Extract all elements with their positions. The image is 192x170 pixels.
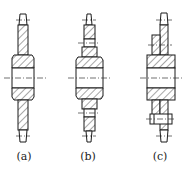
sprocket-a [4,14,46,142]
sprocket-b [68,14,110,142]
sprocket-c [140,13,184,142]
label-c: (c) [145,150,175,163]
label-a: (a) [9,150,39,163]
sprocket-drawing [0,0,192,170]
label-b: (b) [73,150,103,163]
